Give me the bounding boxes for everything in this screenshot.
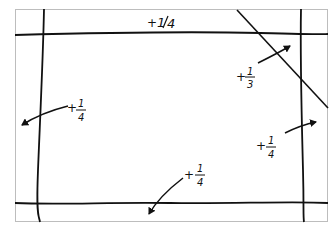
label-numerator: 1 xyxy=(78,98,84,109)
label-upper-right: + 1 3 xyxy=(236,66,255,90)
arrow-upper-right-icon xyxy=(258,46,290,63)
label-numerator: 1 xyxy=(268,135,274,146)
label-bottom: + 1 4 xyxy=(184,163,205,188)
label-denominator: 3 xyxy=(247,79,253,90)
bottom-horizontal-line xyxy=(15,202,328,203)
label-right: + 1 4 xyxy=(256,135,276,160)
label-numerator: 1 xyxy=(247,66,253,77)
label-sign: + xyxy=(67,101,77,115)
label-denominator: 4 xyxy=(197,177,203,188)
label-numerator: 1 xyxy=(197,163,203,174)
arrow-bottom-icon xyxy=(149,178,183,214)
label-sign: + xyxy=(184,168,194,182)
top-horizontal-line xyxy=(15,32,328,35)
label-denominator: 4 xyxy=(167,16,175,31)
arrow-left-icon xyxy=(22,106,68,125)
label-top: + 1 4 xyxy=(147,15,175,31)
label-sign: + xyxy=(236,70,246,84)
diagonal-line xyxy=(237,10,328,108)
label-sign: + xyxy=(147,16,157,30)
right-vertical-line xyxy=(301,9,304,222)
label-sign: + xyxy=(256,139,266,153)
arrow-right-icon xyxy=(285,122,316,133)
outer-frame xyxy=(16,10,328,222)
label-denominator: 4 xyxy=(268,149,274,160)
label-left: + 1 4 xyxy=(67,98,86,123)
label-denominator: 4 xyxy=(78,112,84,123)
label-numerator: 1 xyxy=(157,15,165,30)
sketch-diagram: + 1 4 + 1 3 + 1 4 + 1 4 + 1 4 xyxy=(0,0,335,231)
